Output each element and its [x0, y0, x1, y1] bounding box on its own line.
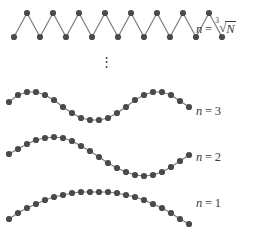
atom-dot	[123, 104, 129, 110]
atom-dot	[15, 210, 21, 216]
atom-dot	[51, 97, 57, 103]
atom-dot	[168, 92, 174, 98]
atom-dot	[150, 172, 156, 178]
mode-label-value: 3	[215, 104, 221, 118]
atom-dot	[114, 165, 120, 171]
cube-root-radical: 3√N	[215, 21, 236, 37]
atom-dot	[15, 146, 21, 152]
atom-dot	[51, 134, 57, 140]
atom-dot	[180, 10, 186, 16]
mode-label-cube-root-n: n=3√N	[196, 21, 236, 37]
atom-dot	[89, 34, 95, 40]
atom-dot	[177, 216, 183, 222]
atom-dot	[60, 192, 66, 198]
atom-dot	[33, 137, 39, 143]
atom-dot	[159, 205, 165, 211]
atom-dot	[78, 143, 84, 149]
atom-dot	[167, 34, 173, 40]
atom-dot	[132, 194, 138, 200]
atom-dot	[141, 197, 147, 203]
atom-dot	[24, 10, 30, 16]
vertical-ellipsis: ⋮	[100, 55, 113, 68]
atom-dot	[6, 216, 12, 222]
atom-dot	[11, 34, 17, 40]
atom-dot	[177, 98, 183, 104]
atom-dot	[33, 89, 39, 95]
mode-label-equals: =	[202, 196, 214, 210]
atom-dot	[141, 34, 147, 40]
mode-label-value: 2	[215, 150, 221, 164]
atom-dot	[69, 138, 75, 144]
atom-dot	[206, 10, 212, 16]
atom-dot	[24, 89, 30, 95]
atom-dot	[159, 89, 165, 95]
atom-dot	[186, 152, 192, 158]
mode-label-value: 1	[215, 196, 221, 210]
atom-dot	[96, 189, 102, 195]
atom-dot	[37, 34, 43, 40]
atom-dot	[150, 89, 156, 95]
mode-chain-link-line	[14, 13, 222, 37]
atom-dot	[123, 169, 129, 175]
mode-chain-link-line	[9, 92, 189, 120]
atom-dot	[33, 201, 39, 207]
mode-label-n-3: n=3	[196, 104, 221, 119]
atom-dot	[69, 190, 75, 196]
atom-dot	[168, 164, 174, 170]
atom-dot	[123, 192, 129, 198]
atom-dot	[141, 92, 147, 98]
atom-dot	[63, 34, 69, 40]
atom-dot	[42, 135, 48, 141]
atom-dot	[6, 151, 12, 157]
mode-chain-1	[11, 10, 225, 40]
atom-dot	[69, 110, 75, 116]
atom-dot	[168, 210, 174, 216]
atom-dot	[186, 104, 192, 110]
atom-dot	[154, 10, 160, 16]
mode-label-equals: =	[202, 150, 214, 164]
atom-dot	[105, 160, 111, 166]
atom-dot	[87, 117, 93, 123]
atom-dot	[114, 190, 120, 196]
atom-dot	[50, 10, 56, 16]
mode-label-equals: =	[202, 22, 214, 36]
atom-dot	[15, 92, 21, 98]
atom-dot	[128, 10, 134, 16]
atom-dot	[141, 173, 147, 179]
atom-dot	[60, 135, 66, 141]
atom-dot	[78, 189, 84, 195]
atom-dot	[87, 189, 93, 195]
mode-label-n-1: n=1	[196, 196, 221, 211]
atom-dot	[177, 158, 183, 164]
radical-sign-icon: √	[219, 21, 226, 34]
atom-dot	[159, 169, 165, 175]
atom-dot	[105, 115, 111, 121]
atom-dot	[87, 148, 93, 154]
atom-dot	[24, 141, 30, 147]
mode-chain-4	[6, 189, 192, 227]
atom-dot	[115, 34, 121, 40]
atom-dot	[102, 10, 108, 16]
mode-label-n-2: n=2	[196, 150, 221, 165]
atom-dot	[24, 205, 30, 211]
atom-dot	[76, 10, 82, 16]
atom-dot	[96, 154, 102, 160]
atom-dot	[78, 115, 84, 121]
atom-dot	[132, 172, 138, 178]
mode-diagram-figure: ⋮ n=3√N n=3 n=2 n=1	[0, 0, 260, 238]
atom-dot	[114, 110, 120, 116]
atom-dot	[51, 194, 57, 200]
atom-dot	[60, 104, 66, 110]
mode-chain-2	[6, 89, 192, 123]
mode-label-equals: =	[202, 104, 214, 118]
atom-dot	[42, 92, 48, 98]
atom-dot	[186, 221, 192, 227]
atom-dot	[96, 117, 102, 123]
atom-dot	[42, 197, 48, 203]
atom-dot	[150, 201, 156, 207]
atom-dot	[105, 189, 111, 195]
mode-chain-3	[6, 134, 192, 179]
atom-dot	[132, 97, 138, 103]
atom-dot	[6, 99, 12, 105]
